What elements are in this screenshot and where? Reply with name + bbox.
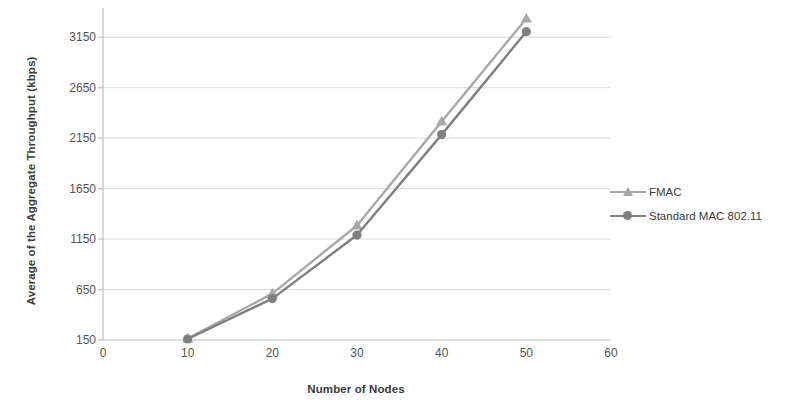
- x-tick-label: 50: [520, 346, 533, 360]
- data-point-marker: [521, 13, 532, 23]
- y-tick-label: 2650: [69, 81, 96, 95]
- legend-swatch: [610, 185, 646, 199]
- legend-label: Standard MAC 802.11: [649, 210, 762, 222]
- y-tick-label: 1650: [69, 182, 96, 196]
- x-axis-title: Number of Nodes: [100, 383, 612, 395]
- legend-item-1[interactable]: Standard MAC 802.11: [610, 204, 788, 228]
- data-point-marker: [437, 130, 446, 139]
- x-tick-label: 20: [266, 346, 279, 360]
- x-tick-label: 60: [604, 346, 617, 360]
- legend-label: FMAC: [649, 186, 682, 198]
- data-point-marker: [183, 334, 192, 343]
- x-tick-label: 40: [435, 346, 448, 360]
- triangle-icon: [623, 187, 633, 196]
- y-tick-label: 1150: [70, 232, 96, 246]
- series-line-1: [188, 32, 527, 339]
- legend-swatch: [610, 209, 646, 223]
- y-tick-label: 3150: [69, 30, 96, 44]
- x-tick-label: 10: [181, 346, 194, 360]
- data-point-marker: [268, 294, 277, 303]
- x-tick-label: 0: [100, 346, 107, 360]
- data-point-marker: [522, 27, 531, 36]
- y-tick-label: 150: [76, 333, 96, 347]
- plot-canvas: [103, 12, 611, 340]
- y-axis-title: Average of the Aggregate Throughput (kbp…: [25, 21, 37, 341]
- x-tick-label: 30: [350, 346, 363, 360]
- series-line-0: [188, 19, 527, 339]
- circle-icon: [623, 211, 632, 220]
- chart-legend: FMACStandard MAC 802.11: [610, 180, 788, 228]
- data-point-marker: [352, 230, 361, 239]
- plot-area: 15065011501650215026503150: [103, 12, 611, 340]
- y-tick-label: 2150: [69, 131, 96, 145]
- y-tick-label: 650: [76, 283, 96, 297]
- legend-item-0[interactable]: FMAC: [610, 180, 788, 204]
- line-chart: Average of the Aggregate Throughput (kbp…: [0, 0, 791, 414]
